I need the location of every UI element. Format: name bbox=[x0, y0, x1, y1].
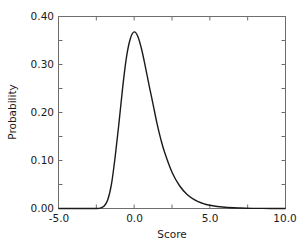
axis-ticks bbox=[59, 17, 286, 209]
plot-area bbox=[59, 17, 286, 209]
y-tick-label: 0.10 bbox=[31, 154, 54, 166]
x-tick-label: 5.0 bbox=[202, 212, 219, 224]
y-axis-title: Probability bbox=[6, 84, 18, 140]
plot-frame bbox=[59, 17, 286, 209]
x-tick-label: 0.0 bbox=[126, 212, 143, 224]
x-axis-labels: -5.0 0.0 5.0 10.0 bbox=[49, 212, 297, 224]
density-curve bbox=[59, 32, 286, 209]
x-tick-label: 10.0 bbox=[273, 212, 296, 224]
x-tick-label: -5.0 bbox=[49, 212, 70, 224]
y-tick-label: 0.40 bbox=[31, 10, 54, 22]
y-tick-label: 0.30 bbox=[31, 58, 54, 70]
y-tick-label: 0.20 bbox=[31, 106, 54, 118]
x-axis-title: Score bbox=[157, 228, 186, 240]
y-axis-labels: 0.40 0.30 0.20 0.10 0.00 bbox=[31, 10, 54, 214]
probability-chart: 0.40 0.30 0.20 0.10 0.00 -5.0 0.0 5.0 10… bbox=[0, 0, 308, 246]
